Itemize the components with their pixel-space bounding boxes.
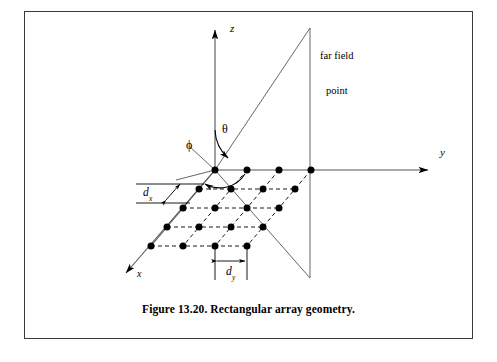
array-element (260, 224, 267, 231)
x-axis-label: x (137, 268, 141, 279)
figure-container: z y x θ ϕ far field point dx dy Figure 1… (0, 0, 497, 362)
array-element (196, 186, 203, 193)
array-element (148, 243, 155, 250)
phi-reference-line (176, 146, 215, 180)
array-element (244, 167, 251, 174)
dx-symbol: d (143, 186, 149, 198)
array-element (212, 243, 219, 250)
array-element (180, 205, 187, 212)
array-element (212, 205, 219, 212)
array-element (212, 167, 219, 174)
y-axis-label: y (440, 146, 445, 158)
theta-angle-label: θ (222, 123, 228, 136)
dy-subscript: y (232, 273, 235, 282)
array-grid-row-lines (151, 189, 295, 246)
far-field-point-label: far field point (320, 26, 354, 120)
dx-subscript: x (149, 194, 152, 203)
far-field-ray (215, 28, 310, 170)
array-element (228, 224, 235, 231)
phi-angle-label: ϕ (186, 139, 192, 152)
array-element (228, 186, 235, 193)
array-element (276, 167, 283, 174)
array-element (292, 186, 299, 193)
figure-caption: Figure 13.20. Rectangular array geometry… (0, 303, 497, 315)
array-element (180, 243, 187, 250)
z-axis-label: z (230, 22, 234, 34)
array-element (308, 167, 315, 174)
array-element (244, 205, 251, 212)
array-element (244, 243, 251, 250)
dy-spacing-label: dy (226, 265, 235, 281)
far-field-label-line1: far field (320, 50, 354, 62)
dy-symbol: d (226, 265, 232, 277)
array-element (276, 205, 283, 212)
array-element-dots (148, 167, 315, 250)
array-element (196, 224, 203, 231)
dx-spacing-label: dx (143, 186, 152, 202)
array-element (260, 186, 267, 193)
far-field-label-line2: point (320, 85, 354, 97)
array-element (164, 224, 171, 231)
